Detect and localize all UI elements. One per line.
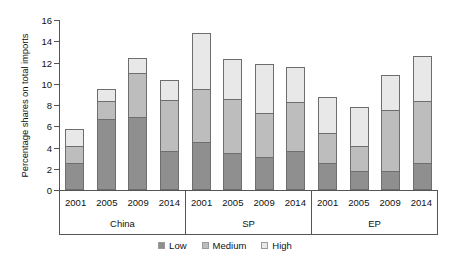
y-tick-label: 12 xyxy=(41,57,52,68)
bar-ep-2005[interactable] xyxy=(350,107,369,190)
bar-ep-2001[interactable] xyxy=(318,97,337,191)
x-tick-label-2001: 2001 xyxy=(60,197,91,208)
chart-legend: LowMediumHigh xyxy=(0,240,450,251)
legend-swatch-icon xyxy=(202,242,209,249)
bar-segment-medium xyxy=(128,73,147,117)
x-tick-label-2001: 2001 xyxy=(186,197,217,208)
y-tick-mark xyxy=(54,41,59,42)
bar-segment-medium xyxy=(413,101,432,163)
y-tick-label: 0 xyxy=(47,185,52,196)
legend-label: Low xyxy=(169,240,186,251)
y-tick-label: 6 xyxy=(47,121,52,132)
legend-item-medium[interactable]: Medium xyxy=(202,240,247,251)
bar-segment-high xyxy=(128,58,147,73)
y-tick-label: 16 xyxy=(41,15,52,26)
x-group-name: China xyxy=(60,213,185,234)
bar-segment-medium xyxy=(223,99,242,153)
bar-segment-medium xyxy=(286,102,305,150)
bar-segment-low xyxy=(192,142,211,190)
bar-segment-medium xyxy=(97,101,116,119)
plot-area: 0246810121416 xyxy=(59,20,438,190)
bar-sp-2014[interactable] xyxy=(286,67,305,190)
bar-sp-2001[interactable] xyxy=(192,33,211,190)
bar-segment-low xyxy=(318,163,337,190)
bar-segment-low xyxy=(160,151,179,190)
bar-segment-medium xyxy=(255,113,274,157)
x-group-china: 2001200520092014China xyxy=(60,191,186,234)
x-tick-label-2005: 2005 xyxy=(343,197,374,208)
y-axis-title: Percentage shares on total imports xyxy=(19,16,30,196)
bar-china-2014[interactable] xyxy=(160,80,179,191)
bar-segment-high xyxy=(413,56,432,102)
x-tick-label-2001: 2001 xyxy=(312,197,343,208)
x-group-years: 2001200520092014 xyxy=(312,191,437,213)
bar-segment-high xyxy=(223,59,242,99)
bar-segment-medium xyxy=(350,146,369,172)
x-tick-label-2009: 2009 xyxy=(249,197,280,208)
bar-segment-low xyxy=(286,151,305,190)
chart-figure: Percentage shares on total imports 02468… xyxy=(0,0,450,266)
bar-segment-medium xyxy=(318,133,337,163)
bar-segment-low xyxy=(413,163,432,190)
legend-item-low[interactable]: Low xyxy=(158,240,186,251)
x-axis-label-table: 2001200520092014China2001200520092014SP2… xyxy=(59,191,438,235)
bar-sp-2005[interactable] xyxy=(223,59,242,190)
bar-segment-high xyxy=(192,33,211,89)
bar-segment-low xyxy=(65,163,84,190)
bar-segment-low xyxy=(128,117,147,190)
bar-segment-medium xyxy=(65,146,84,162)
y-tick-label: 10 xyxy=(41,78,52,89)
x-group-years: 2001200520092014 xyxy=(186,191,311,213)
y-tick-mark xyxy=(54,84,59,85)
bar-china-2005[interactable] xyxy=(97,89,116,190)
y-tick-label: 4 xyxy=(47,142,52,153)
bar-segment-low xyxy=(97,119,116,190)
x-group-sp: 2001200520092014SP xyxy=(186,191,312,234)
legend-item-high[interactable]: High xyxy=(261,240,292,251)
x-tick-label-2009: 2009 xyxy=(375,197,406,208)
x-tick-label-2005: 2005 xyxy=(91,197,122,208)
bar-segment-high xyxy=(255,64,274,113)
y-tick-mark xyxy=(54,105,59,106)
bar-segment-medium xyxy=(381,110,400,171)
bar-segment-low xyxy=(381,171,400,190)
y-tick-mark xyxy=(54,169,59,170)
legend-label: Medium xyxy=(213,240,247,251)
bar-segment-medium xyxy=(160,100,179,150)
bar-segment-low xyxy=(223,153,242,190)
bar-ep-2009[interactable] xyxy=(381,75,400,190)
y-tick-label: 14 xyxy=(41,36,52,47)
y-tick-mark xyxy=(54,148,59,149)
legend-swatch-icon xyxy=(261,242,268,249)
x-tick-label-2014: 2014 xyxy=(154,197,185,208)
bar-segment-high xyxy=(381,75,400,111)
x-tick-label-2014: 2014 xyxy=(406,197,437,208)
y-axis-line xyxy=(59,20,60,190)
x-tick-label-2014: 2014 xyxy=(280,197,311,208)
x-tick-label-2009: 2009 xyxy=(123,197,154,208)
y-tick-mark xyxy=(54,63,59,64)
legend-swatch-icon xyxy=(158,242,165,249)
bar-segment-high xyxy=(318,97,337,134)
x-group-name: SP xyxy=(186,213,311,234)
x-group-years: 2001200520092014 xyxy=(60,191,185,213)
bar-segment-high xyxy=(65,129,84,147)
bar-segment-medium xyxy=(192,89,211,142)
legend-label: High xyxy=(272,240,292,251)
y-tick-mark xyxy=(54,20,59,21)
x-group-ep: 2001200520092014EP xyxy=(312,191,437,234)
y-tick-label: 8 xyxy=(47,100,52,111)
bar-ep-2014[interactable] xyxy=(413,56,432,190)
bar-sp-2009[interactable] xyxy=(255,64,274,190)
y-tick-label: 2 xyxy=(47,163,52,174)
x-group-name: EP xyxy=(312,213,437,234)
x-tick-label-2005: 2005 xyxy=(217,197,248,208)
bar-segment-high xyxy=(286,67,305,102)
bar-segment-low xyxy=(350,171,369,190)
bar-segment-high xyxy=(97,89,116,101)
bar-china-2009[interactable] xyxy=(128,58,147,190)
bar-segment-high xyxy=(350,107,369,146)
y-tick-mark xyxy=(54,126,59,127)
bar-segment-high xyxy=(160,80,179,101)
bar-china-2001[interactable] xyxy=(65,129,84,190)
